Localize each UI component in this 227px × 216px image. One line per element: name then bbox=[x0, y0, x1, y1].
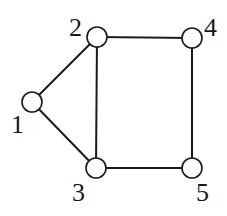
edges-group bbox=[32, 37, 192, 168]
edge-2-3 bbox=[96, 37, 97, 168]
nodes-group bbox=[22, 27, 202, 178]
node-label-3: 3 bbox=[72, 178, 85, 207]
node-4 bbox=[182, 28, 202, 48]
edge-1-2 bbox=[32, 37, 97, 102]
node-label-5: 5 bbox=[196, 178, 209, 207]
node-3 bbox=[86, 158, 106, 178]
node-1 bbox=[22, 92, 42, 112]
graph-diagram: 12345 bbox=[0, 0, 227, 216]
node-5 bbox=[182, 158, 202, 178]
edge-1-3 bbox=[32, 102, 96, 168]
edge-2-4 bbox=[97, 37, 192, 38]
node-label-1: 1 bbox=[11, 110, 24, 139]
node-label-2: 2 bbox=[69, 13, 82, 42]
node-label-4: 4 bbox=[204, 13, 217, 42]
node-2 bbox=[87, 27, 107, 47]
